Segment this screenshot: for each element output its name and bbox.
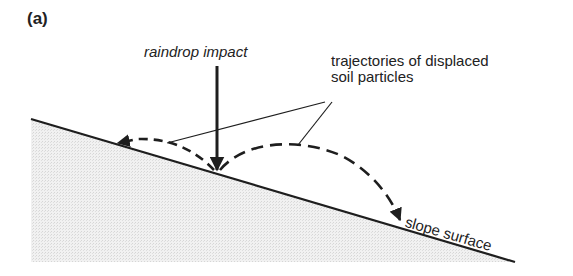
panel-label: (a) xyxy=(27,9,48,29)
trajectories-label-line2: soil particles xyxy=(331,69,489,85)
raindrop-impact-label: raindrop impact xyxy=(144,43,247,60)
trajectories-label: trajectories of displaced soil particles xyxy=(331,53,489,85)
leader-line-right xyxy=(298,102,332,145)
soil-erosion-diagram xyxy=(0,0,573,276)
trajectories-label-line1: trajectories of displaced xyxy=(331,53,489,69)
leader-line-left xyxy=(167,102,325,143)
